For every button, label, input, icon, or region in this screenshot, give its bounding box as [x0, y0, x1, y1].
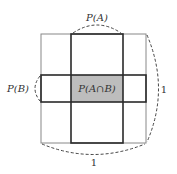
height-brace: [147, 35, 159, 142]
height-one-label: 1: [161, 84, 167, 95]
pb-label: P(B): [6, 83, 29, 94]
width-one-label: 1: [91, 157, 97, 168]
pa-brace: [73, 25, 121, 33]
pa-label: P(A): [85, 12, 108, 23]
pb-brace: [35, 76, 40, 101]
area-diagram: P(A) P(B) P(A∩B) 1 1: [0, 0, 177, 174]
width-brace: [42, 144, 145, 155]
pab-label: P(A∩B): [77, 83, 116, 94]
